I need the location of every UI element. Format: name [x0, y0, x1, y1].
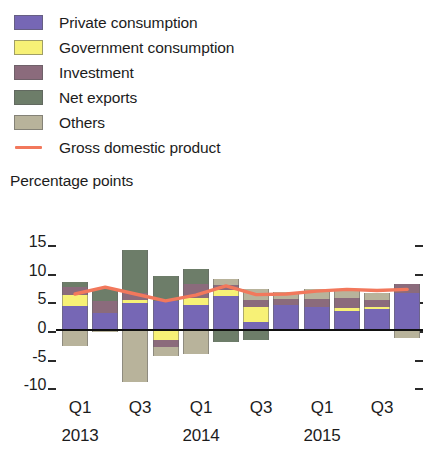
legend-label: Gross domestic product	[59, 139, 220, 156]
color-swatch-icon	[14, 90, 43, 105]
zero-baseline	[56, 329, 423, 331]
legend-label: Net exports	[59, 89, 137, 106]
x-tick-year-2015: 2015	[294, 426, 350, 446]
x-tick-year-2014: 2014	[173, 426, 229, 446]
legend-label: Private consumption	[59, 14, 198, 31]
x-tick-q1-2014: Q1	[179, 398, 223, 418]
legend-item-government-consumption: Government consumption	[14, 35, 416, 60]
chart-legend: Private consumption Government consumpti…	[14, 10, 416, 160]
x-tick-year-2013: 2013	[52, 426, 108, 446]
x-tick-q1-2015: Q1	[300, 398, 344, 418]
color-swatch-icon	[14, 65, 43, 80]
legend-item-net-exports: Net exports	[14, 85, 416, 110]
legend-label: Government consumption	[59, 39, 234, 56]
y-axis-title: Percentage points	[10, 172, 133, 190]
legend-item-others: Others	[14, 110, 416, 135]
legend-item-investment: Investment	[14, 60, 416, 85]
x-tick-q3-2015: Q3	[360, 398, 404, 418]
x-tick-q3-2014: Q3	[239, 398, 283, 418]
legend-item-gross-domestic-product: Gross domestic product	[14, 135, 416, 160]
legend-label: Investment	[59, 64, 134, 81]
color-swatch-icon	[14, 115, 43, 130]
legend-item-private-consumption: Private consumption	[14, 10, 416, 35]
x-tick-q3-2013: Q3	[118, 398, 162, 418]
x-tick-q1-2013: Q1	[58, 398, 102, 418]
line-swatch-icon	[14, 140, 43, 155]
color-swatch-icon	[14, 15, 43, 30]
x-axis: Q1 Q3 Q1 Q3 Q1 Q3 2013 2014 2015	[0, 398, 430, 451]
color-swatch-icon	[14, 40, 43, 55]
legend-label: Others	[59, 114, 105, 131]
gdp-line-path	[75, 286, 407, 301]
